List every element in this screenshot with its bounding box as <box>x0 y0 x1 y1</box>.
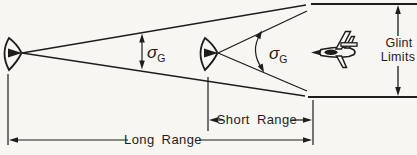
glint-limits-arrow-down <box>395 66 401 96</box>
radar-antenna-icon <box>5 38 23 70</box>
aircraft-icon <box>311 32 357 68</box>
glint-limits-label-line2: Limits <box>381 50 415 64</box>
short-range-label: Short Range <box>217 112 297 127</box>
radar-antenna-icon <box>201 38 219 70</box>
glint-limits-arrow-up <box>395 5 401 36</box>
sigma-label-long-range: σG <box>147 43 165 64</box>
long-range-label: Long Range <box>124 132 202 147</box>
diagram-canvas: σG σG Glint Limits Short Range <box>0 0 417 155</box>
glint-limits-label-line1: Glint <box>385 36 412 50</box>
sigma-angle-arc-short-range <box>255 31 264 73</box>
glint-limits-diagram: σG σG Glint Limits Short Range <box>0 0 417 155</box>
sigma-label-short-range: σG <box>269 44 287 65</box>
long-range-beam-upper-line <box>22 5 306 53</box>
sigma-angle-arrow-long-range <box>139 34 145 70</box>
